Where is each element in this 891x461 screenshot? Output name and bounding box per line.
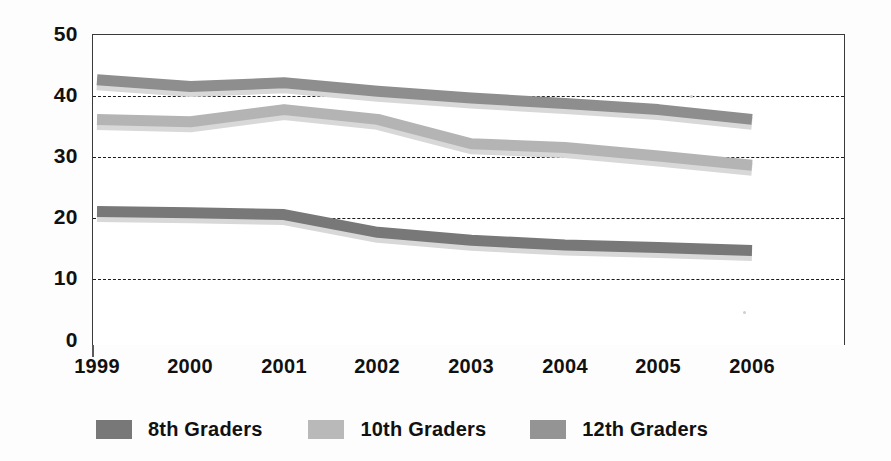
y-tick-label-0: 0 xyxy=(18,328,78,352)
x-tick-label-2003: 2003 xyxy=(426,355,516,378)
x-axis-labels: 1999 2000 2001 2002 2003 2004 2005 2006 xyxy=(0,355,891,385)
legend-label-12th: 12th Graders xyxy=(582,418,708,441)
x-tick-label-2002: 2002 xyxy=(332,355,422,378)
x-tick-label-2004: 2004 xyxy=(520,355,610,378)
y-tick-label-30: 30 xyxy=(18,144,78,168)
y-tick-label-40: 40 xyxy=(18,83,78,107)
gridline-30 xyxy=(93,157,844,158)
plot-area xyxy=(92,34,845,345)
y-tick-label-10: 10 xyxy=(18,266,78,290)
y-axis-labels: 50 40 30 20 10 0 xyxy=(14,0,78,461)
legend-swatch-icon-10th xyxy=(308,420,344,439)
scan-speck xyxy=(743,311,746,314)
legend-label-8th: 8th Graders xyxy=(148,418,262,441)
legend-swatch-icon-12th xyxy=(530,420,566,439)
x-tick-label-2006: 2006 xyxy=(707,355,797,378)
legend-item-8th-graders[interactable]: 8th Graders xyxy=(96,418,262,441)
y-tick-label-20: 20 xyxy=(18,205,78,229)
x-tick-label-1999: 1999 xyxy=(52,355,142,378)
x-tick-label-2005: 2005 xyxy=(613,355,703,378)
gridline-10 xyxy=(93,279,844,280)
legend-swatch-icon-8th xyxy=(96,420,132,439)
legend-label-10th: 10th Graders xyxy=(360,418,486,441)
chart-container: 50 40 30 20 10 0 1999 2000 2001 2002 200… xyxy=(0,0,891,461)
gridline-40 xyxy=(93,96,844,97)
legend-item-12th-graders[interactable]: 12th Graders xyxy=(530,418,708,441)
x-tick-label-2001: 2001 xyxy=(239,355,329,378)
chart-legend: 8th Graders 10th Graders 12th Graders xyxy=(96,412,708,446)
gridline-20 xyxy=(93,218,844,219)
scan-speck xyxy=(690,95,693,98)
y-tick-label-50: 50 xyxy=(18,22,78,46)
legend-item-10th-graders[interactable]: 10th Graders xyxy=(308,418,486,441)
x-tick-label-2000: 2000 xyxy=(145,355,235,378)
